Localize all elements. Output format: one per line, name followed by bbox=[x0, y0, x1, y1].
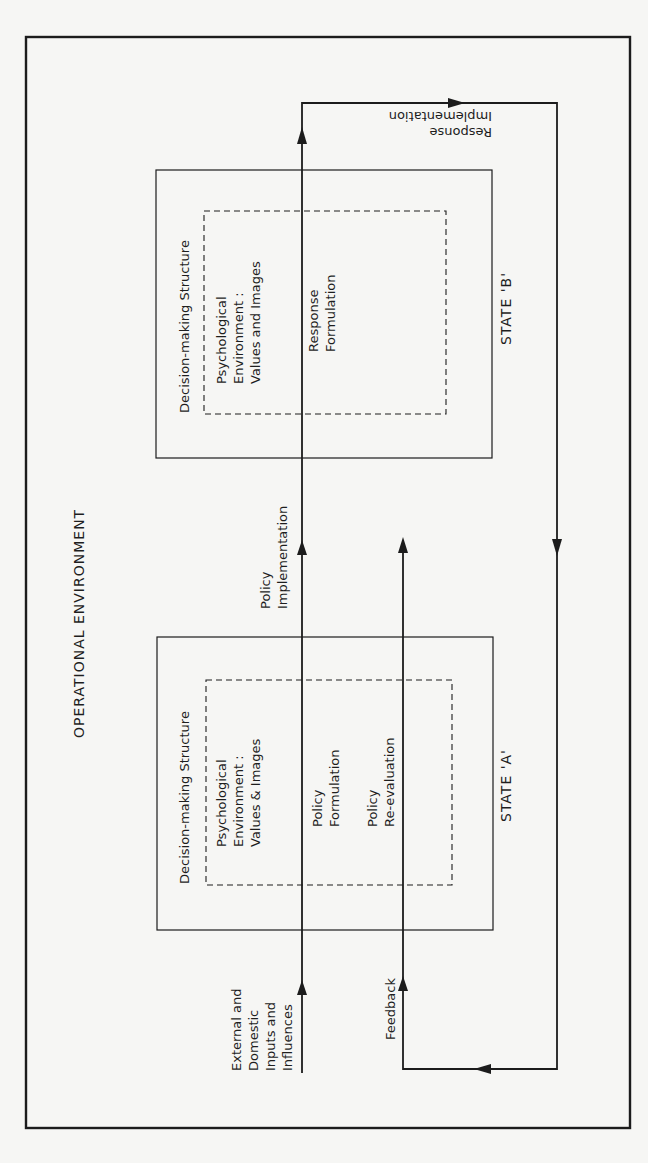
state-b-process-line2: Formulation bbox=[323, 275, 338, 352]
policy-implementation-arrow-icon bbox=[297, 540, 307, 555]
state-b-psych-line3: Values and Images bbox=[248, 261, 263, 384]
response-formulation-arrow-icon bbox=[297, 127, 307, 144]
state-b-structure-label: Decision-making Structure bbox=[177, 240, 192, 413]
feedback-return-arrow-icon bbox=[474, 1064, 491, 1074]
inputs-label-line1: External and bbox=[229, 988, 244, 1071]
operational-environment-box bbox=[26, 37, 630, 1128]
inputs-arrow-icon bbox=[297, 980, 307, 995]
policy-implementation-label-line1: Policy bbox=[258, 571, 273, 609]
state-a-reevaluation-line2: Re-evaluation bbox=[382, 737, 397, 827]
feedback-label: Feedback bbox=[383, 978, 398, 1040]
state-a-box bbox=[157, 637, 493, 930]
state-a-psych-line1: Psychological bbox=[214, 759, 229, 847]
policy-implementation-label-line2: Implementation bbox=[275, 506, 290, 609]
state-a-formulation-line2: Formulation bbox=[327, 750, 342, 827]
response-implementation-label-line2: Implementation bbox=[389, 109, 492, 124]
state-b-title: STATE 'B' bbox=[498, 272, 514, 345]
loop-down-arrow-icon bbox=[552, 539, 562, 556]
state-a-psych-line3: Values & Images bbox=[248, 738, 263, 847]
state-a-title: STATE 'A' bbox=[498, 749, 514, 822]
state-a-psych-line2: Environment : bbox=[231, 755, 246, 847]
inputs-label-line2: Domestic bbox=[246, 1010, 261, 1071]
foreign-policy-diagram: OPERATIONAL ENVIRONMENT Decision-making … bbox=[0, 0, 648, 1163]
state-a-structure-label: Decision-making Structure bbox=[177, 711, 192, 884]
state-a-reevaluation-line1: Policy bbox=[365, 789, 380, 827]
state-a-formulation-line1: Policy bbox=[310, 789, 325, 827]
reevaluation-arrow-icon bbox=[398, 537, 408, 553]
inputs-label-line4: Influences bbox=[280, 1004, 295, 1071]
feedback-arrow-icon bbox=[398, 976, 408, 991]
main-flow-line bbox=[302, 103, 557, 1073]
state-b-psych-line1: Psychological bbox=[214, 296, 229, 384]
state-b-process-line1: Response bbox=[306, 290, 321, 352]
inputs-label-line3: Inputs and bbox=[263, 1002, 278, 1071]
state-b-psych-line2: Environment : bbox=[231, 292, 246, 384]
response-implementation-label-line1: Response bbox=[430, 125, 492, 140]
operational-environment-label: OPERATIONAL ENVIRONMENT bbox=[71, 509, 87, 738]
response-implementation-arrow-icon bbox=[448, 98, 465, 108]
